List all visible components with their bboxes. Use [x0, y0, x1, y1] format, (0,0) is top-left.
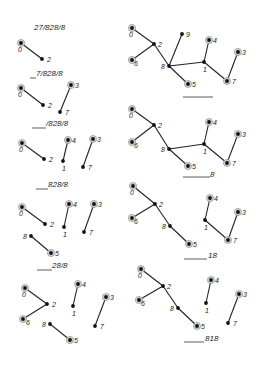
node-7	[226, 238, 230, 242]
graph-panel-L3: 024137/828/8	[18, 119, 101, 172]
edge-3-7	[83, 139, 93, 167]
node-2	[153, 202, 157, 206]
node-3	[236, 210, 240, 214]
node-label: 4	[82, 281, 86, 288]
edge-3-7	[227, 52, 238, 81]
node-label: 0	[18, 91, 22, 98]
node-label: 0	[138, 272, 142, 279]
edge-3-7	[95, 297, 106, 326]
edge-6-2	[23, 304, 47, 319]
node-8	[168, 224, 172, 228]
edge-0-2	[22, 207, 45, 224]
graph-panel-L4: 02413785828/8	[18, 180, 102, 257]
node-label: 2	[166, 283, 171, 290]
edge-6-2	[132, 204, 155, 218]
node-4	[207, 38, 211, 42]
node-3	[236, 132, 240, 136]
node-3	[237, 292, 241, 296]
edge-6-2	[132, 44, 154, 60]
node-label: 4	[215, 277, 219, 284]
node-4	[208, 196, 212, 200]
node-label: 7	[88, 164, 93, 171]
node-label: 1	[203, 66, 207, 73]
node-label: 0	[19, 210, 23, 217]
node-label: 7	[232, 78, 237, 85]
edge-0-2	[132, 28, 154, 44]
node-label: 0	[19, 146, 23, 153]
node-3	[91, 137, 95, 141]
code-label: 818	[205, 334, 219, 343]
node-label: 1	[63, 231, 67, 238]
node-label: 3	[242, 49, 246, 56]
code-label: 28/8	[51, 261, 68, 270]
edge-1-7	[204, 144, 227, 163]
node-7	[58, 110, 62, 114]
node-0	[130, 107, 134, 111]
node-7	[226, 321, 230, 325]
node-label: 3	[242, 131, 246, 138]
node-label: 2	[49, 221, 54, 228]
node-label: 8	[161, 63, 165, 70]
node-0	[139, 267, 143, 271]
node-7	[225, 161, 229, 165]
node-9	[180, 32, 184, 36]
node-label: 8	[170, 305, 174, 312]
node-label: 6	[141, 300, 145, 307]
node-label: 5	[55, 250, 59, 257]
node-1	[204, 301, 208, 305]
node-label: 8	[23, 233, 27, 240]
edge-3-7	[60, 85, 71, 112]
tree-sequence-diagram: 0227/828/802377/828/8024137/828/80241378…	[0, 0, 265, 366]
node-label: 3	[98, 201, 102, 208]
edge-8-5	[31, 236, 51, 253]
node-8	[176, 306, 180, 310]
node-5	[186, 164, 190, 168]
node-4	[207, 120, 211, 124]
node-1	[202, 60, 206, 64]
node-2	[152, 42, 156, 46]
node-5	[195, 324, 199, 328]
node-label: 3	[75, 82, 79, 89]
node-0	[20, 141, 24, 145]
node-1	[62, 225, 66, 229]
node-0	[19, 41, 23, 45]
node-0	[20, 205, 24, 209]
node-2	[41, 103, 45, 107]
node-3	[104, 295, 108, 299]
node-label: 1	[204, 224, 208, 231]
node-label: 5	[193, 241, 197, 248]
node-5	[187, 242, 191, 246]
node-7	[81, 165, 85, 169]
code-label: /828/8	[45, 119, 69, 128]
edge-8-5	[169, 66, 188, 84]
node-label: 0	[22, 291, 26, 298]
node-label: 2	[158, 201, 163, 208]
edge-8-5	[170, 226, 189, 244]
node-label: 0	[129, 31, 133, 38]
node-4	[67, 202, 71, 206]
edge-0-2	[132, 109, 154, 125]
node-label: 3	[242, 209, 246, 216]
node-label: 6	[134, 60, 138, 67]
node-label: 5	[192, 163, 196, 170]
node-label: 8	[161, 146, 165, 153]
graph-panel-R2: 0268541378	[128, 105, 246, 179]
node-label: 3	[110, 294, 114, 301]
node-4	[66, 138, 70, 142]
edge-3-7	[228, 212, 238, 240]
node-label: 7	[65, 109, 70, 116]
code-label: 18	[208, 251, 217, 260]
graph-panel-L1: 0227/828/8	[17, 23, 65, 63]
node-label: 2	[46, 56, 51, 63]
node-1	[71, 304, 75, 308]
node-label: 4	[214, 195, 218, 202]
node-0	[130, 26, 134, 30]
edge-0-2	[133, 186, 155, 204]
node-8	[48, 322, 52, 326]
node-1	[203, 218, 207, 222]
node-label: 2	[48, 156, 53, 163]
node-7	[82, 230, 86, 234]
edge-0-2	[25, 288, 47, 304]
node-2	[152, 123, 156, 127]
node-2	[161, 284, 165, 288]
